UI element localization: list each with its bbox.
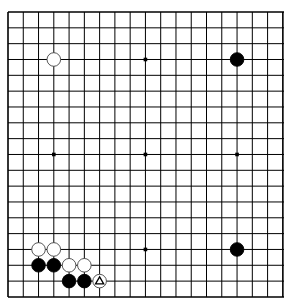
black-stone[interactable] [78, 274, 92, 288]
go-board[interactable] [0, 0, 284, 304]
white-stone[interactable] [47, 243, 61, 257]
star-point [144, 248, 148, 252]
black-stone[interactable] [62, 274, 76, 288]
black-stone[interactable] [47, 258, 61, 272]
black-stone[interactable] [230, 243, 244, 257]
star-point [144, 58, 148, 62]
white-stone[interactable] [93, 274, 107, 288]
white-stone[interactable] [78, 258, 92, 272]
black-stone[interactable] [230, 53, 244, 67]
white-stone[interactable] [62, 258, 76, 272]
white-stone[interactable] [32, 243, 46, 257]
star-point [52, 153, 56, 157]
star-point [235, 153, 239, 157]
black-stone[interactable] [32, 258, 46, 272]
white-stone[interactable] [47, 53, 61, 67]
star-point [144, 153, 148, 157]
